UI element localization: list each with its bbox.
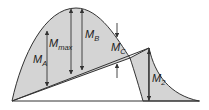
moment-region-right [130,48,149,101]
bending-moment-diagram: MA Mmax MB MC M2 [0,0,209,110]
